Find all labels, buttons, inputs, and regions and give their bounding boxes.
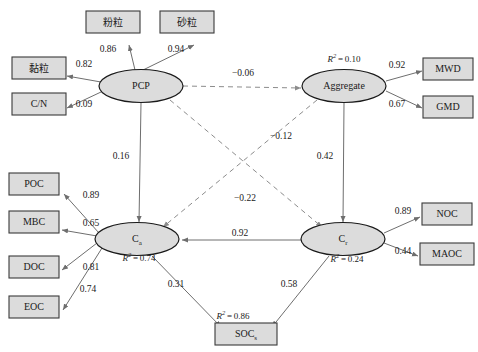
node-label-pcp: PCP [132, 80, 150, 91]
node-aggregate[interactable]: Aggregate [302, 70, 386, 103]
coefficient-pcp-to-sand: 0.94 [168, 44, 185, 54]
coefficient-pcp-to-clay: 0.82 [76, 59, 93, 69]
edge-pcp-to-aggregate [183, 86, 301, 88]
edge-pcp-to-cr [170, 100, 322, 227]
node-label-sand: 砂粒 [177, 16, 197, 28]
edge-ca-to-mbc [62, 230, 97, 236]
node-label-poc: POC [24, 178, 44, 189]
edge-ca-to-eoc [63, 248, 102, 310]
coefficient-ca-to-eoc: 0.74 [80, 284, 97, 294]
coefficient-aggregate-to-cr: 0.42 [317, 151, 334, 161]
coefficient-pcp-to-ca: 0.16 [113, 151, 130, 161]
coefficient-ca-to-mbc: 0.65 [83, 218, 100, 228]
node-label-aggregate: Aggregate [323, 80, 365, 91]
node-eoc[interactable]: EOC [9, 296, 59, 318]
node-label-cn: C/N [31, 98, 48, 109]
coefficient-cr-to-noc: 0.89 [395, 206, 412, 216]
node-label-eoc: EOC [24, 301, 44, 312]
coefficient-cr-to-ca: 0.92 [232, 228, 249, 238]
edge-cr-to-noc [384, 217, 420, 233]
edge-pcp-to-ca [139, 103, 141, 222]
edge-ca-to-socs [152, 256, 221, 327]
r-squared-socs: R2 = 0.86 [215, 309, 250, 321]
node-noc[interactable]: NOC [422, 203, 472, 225]
node-maoc[interactable]: MAOC [420, 243, 474, 265]
node-label-mwd: MWD [435, 63, 461, 74]
coefficient-ca-to-poc: 0.89 [83, 190, 100, 200]
coefficient-ca-to-socs: 0.31 [168, 279, 185, 289]
node-label-clay: 黏粒 [29, 62, 49, 74]
sem-path-diagram-canvas: 粉粒砂粒黏粒C/NPCPAggregateMWDGMDPOCMBCDOCEOCC… [0, 0, 478, 352]
node-doc[interactable]: DOC [9, 256, 59, 278]
node-label-silt: 粉粒 [103, 16, 123, 28]
edge-pcp-to-silt [129, 45, 135, 70]
coefficient-cr-to-maoc: 0.44 [395, 246, 412, 256]
edge-aggregate-to-cr [343, 103, 344, 222]
node-pcp[interactable]: PCP [99, 70, 183, 103]
r-squared-cr: R2 = 0.24 [329, 252, 364, 264]
edge-cr-to-socs [272, 256, 329, 327]
node-clay[interactable]: 黏粒 [12, 57, 66, 79]
coefficient-aggregate-to-ca: −0.22 [234, 193, 256, 203]
node-ca[interactable]: Ca [95, 223, 179, 256]
node-gmd[interactable]: GMD [423, 96, 473, 118]
coefficient-pcp-to-aggregate: −0.06 [232, 68, 254, 78]
coefficient-pcp-to-silt: 0.86 [100, 44, 117, 54]
node-label-maoc: MAOC [432, 248, 462, 259]
node-label-noc: NOC [436, 208, 457, 219]
edge-aggregate-to-ca [163, 100, 317, 227]
coefficient-ca-to-doc: 0.81 [83, 262, 100, 272]
edge-pcp-to-clay [67, 76, 101, 82]
r-squared-ca: R2 = 0.74 [121, 251, 156, 263]
node-cn[interactable]: C/N [12, 93, 66, 115]
coefficient-aggregate-to-mwd: 0.92 [389, 60, 406, 70]
node-silt[interactable]: 粉粒 [86, 11, 140, 33]
node-mbc[interactable]: MBC [9, 211, 59, 233]
node-mwd[interactable]: MWD [423, 58, 473, 80]
node-label-doc: DOC [23, 261, 44, 272]
coefficient-pcp-to-cn: 0.09 [76, 99, 93, 109]
node-label-gmd: GMD [436, 101, 459, 112]
node-sand[interactable]: 砂粒 [160, 11, 214, 33]
coefficient-cr-to-socs: 0.58 [281, 279, 298, 289]
node-cr[interactable]: Cr [301, 223, 385, 256]
node-socs[interactable]: SOCs [215, 323, 277, 345]
edge-aggregate-to-mwd [386, 71, 422, 81]
coefficient-pcp-to-cr: −0.12 [270, 131, 292, 141]
node-poc[interactable]: POC [9, 173, 59, 195]
r-squared-aggregate: R2 = 0.10 [326, 52, 361, 64]
path-diagram-svg: 粉粒砂粒黏粒C/NPCPAggregateMWDGMDPOCMBCDOCEOCC… [0, 0, 478, 352]
node-label-mbc: MBC [23, 216, 46, 227]
coefficient-aggregate-to-gmd: 0.67 [389, 99, 406, 109]
